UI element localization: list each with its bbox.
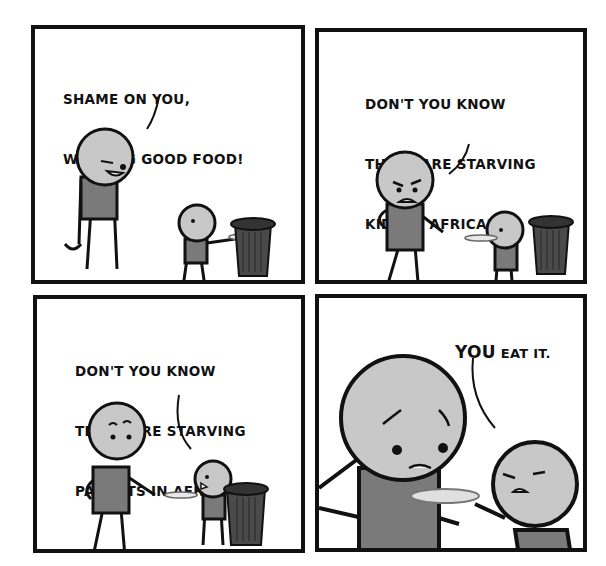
child-figure bbox=[465, 212, 523, 284]
adult-figure bbox=[65, 129, 133, 269]
speech-tail bbox=[449, 144, 469, 174]
trash-can-icon bbox=[231, 218, 275, 276]
speech-tail bbox=[178, 395, 192, 449]
comic-panel-3: DON'T YOU KNOW THERE ARE STARVING PARENT… bbox=[33, 295, 305, 553]
adult-figure-closeup bbox=[319, 356, 465, 552]
comic-panel-1: SHAME ON YOU, WASTING GOOD FOOD! bbox=[31, 25, 305, 284]
panel-3-illustration bbox=[37, 299, 305, 553]
adult-figure bbox=[87, 403, 155, 553]
panel-2-illustration bbox=[319, 32, 587, 284]
panel-1-illustration bbox=[35, 29, 305, 284]
comic-panel-2: DON'T YOU KNOW THERE ARE STARVING KIDS I… bbox=[315, 28, 587, 284]
child-figure-closeup bbox=[475, 442, 577, 552]
trash-can-icon bbox=[529, 216, 573, 274]
child-figure bbox=[165, 461, 231, 545]
comic-panel-4: YOU EAT IT. bbox=[315, 294, 587, 552]
adult-figure bbox=[377, 152, 443, 284]
speech-tail bbox=[147, 97, 159, 129]
panel-4-illustration bbox=[319, 298, 587, 552]
trash-can-icon bbox=[224, 483, 268, 545]
speech-tail bbox=[472, 358, 495, 428]
plate bbox=[411, 489, 479, 503]
